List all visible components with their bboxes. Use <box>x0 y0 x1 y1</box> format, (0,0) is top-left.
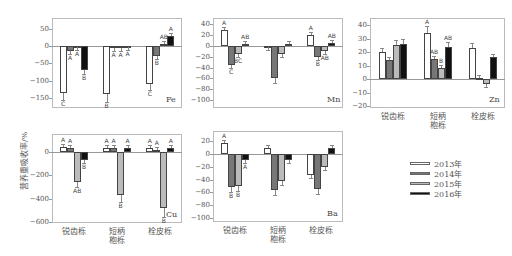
panel-element-label: Mn <box>327 95 340 104</box>
error-bar-cap <box>316 194 320 195</box>
y-tick-mark <box>210 100 213 101</box>
significance-letter: B <box>114 203 128 209</box>
error-bar-cap <box>394 40 398 41</box>
error-bar-cap <box>68 145 72 146</box>
significance-letter: A <box>420 19 434 25</box>
bar-2015 <box>160 152 167 208</box>
error-bar-cap <box>484 87 488 88</box>
significance-letter: B <box>150 60 164 66</box>
y-tick-mark <box>49 81 52 82</box>
y-tick-label: −50 <box>23 59 49 67</box>
bar-2016 <box>400 44 407 79</box>
y-tick-label: 50 <box>23 25 49 33</box>
bar-2014 <box>314 154 321 189</box>
panel-element-label: Zn <box>489 95 500 104</box>
y-tick-mark <box>367 52 370 53</box>
bar-2013 <box>221 30 228 46</box>
error-bar-cap <box>309 178 313 179</box>
y-tick-label: −400 <box>23 195 49 203</box>
error-bar-cap <box>287 41 291 42</box>
y-tick-label: −60 <box>184 74 210 82</box>
bar-2016 <box>167 148 174 152</box>
error-bar-cap <box>470 43 474 44</box>
y-tick-label: −20 <box>184 163 210 171</box>
panel-element-label: Fe <box>166 95 176 104</box>
significance-letter: C <box>143 91 157 97</box>
bar-2016 <box>285 44 292 46</box>
bar-2015 <box>438 68 445 79</box>
error-bar-cap <box>439 65 443 66</box>
bar-2013 <box>60 147 67 152</box>
legend-item-2015: 2015年 <box>410 178 462 188</box>
y-tick-mark <box>210 205 213 206</box>
error-bar-cap <box>280 57 284 58</box>
error-bar <box>63 93 64 100</box>
error-bar-cap <box>169 33 173 34</box>
bar-2014 <box>271 154 278 190</box>
significance-letter: A <box>121 138 135 144</box>
bar-2014 <box>153 46 160 56</box>
y-tick-label: 20 <box>184 31 210 39</box>
y-tick-mark <box>210 78 213 79</box>
bar-2016 <box>445 47 452 79</box>
y-tick-label: 30 <box>341 35 367 43</box>
bar-2016 <box>81 46 88 70</box>
error-bar-cap <box>222 27 226 28</box>
significance-letter: A <box>217 20 231 26</box>
y-tick-mark <box>367 106 370 107</box>
legend-swatch-2015 <box>410 182 430 185</box>
significance-letter: B <box>311 61 325 67</box>
y-tick-mark <box>210 167 213 168</box>
legend-swatch-2013 <box>410 162 430 165</box>
bar-2013 <box>103 148 110 152</box>
bar-2013 <box>307 154 314 175</box>
x-category-label: 短柄 枹栎 <box>102 227 132 245</box>
x-category-label: 短柄 枹栎 <box>423 112 453 130</box>
bar-2016 <box>124 148 131 152</box>
y-axis-label: 营养重吸收率/% <box>18 132 29 190</box>
y-tick-label: −100 <box>184 96 210 104</box>
error-bar-cap <box>105 145 109 146</box>
significance-letter: A <box>121 51 135 57</box>
y-tick-mark <box>367 39 370 40</box>
y-tick-label: −80 <box>184 85 210 93</box>
error-bar-cap <box>162 41 166 42</box>
y-tick-mark <box>49 98 52 99</box>
y-tick-mark <box>49 175 52 176</box>
y-tick-mark <box>210 218 213 219</box>
legend-swatch-2016 <box>410 192 430 195</box>
significance-letter: A <box>150 140 164 146</box>
significance-letter: B <box>100 103 114 109</box>
error-bar-cap <box>387 57 391 58</box>
significance-letter: A <box>107 138 121 144</box>
legend-item-2014: 2014年 <box>410 168 462 178</box>
bar-2014 <box>153 150 160 152</box>
bar-2013 <box>469 48 476 79</box>
bar-2014 <box>228 154 235 187</box>
significance-letter: AB <box>70 188 84 194</box>
x-category-label: 短柄 枹栎 <box>263 226 293 244</box>
error-bar-cap <box>309 32 313 33</box>
y-tick-label: −20 <box>184 53 210 61</box>
y-tick-mark <box>367 66 370 67</box>
x-category-label: 锐齿栎 <box>378 112 408 121</box>
y-tick-label: −10 <box>341 89 367 97</box>
significance-letter: A <box>304 25 318 31</box>
significance-letter: A <box>164 26 178 32</box>
legend-item-2016: 2016年 <box>410 188 462 198</box>
significance-letter: AB <box>318 55 332 61</box>
bar-2013 <box>146 148 153 152</box>
error-bar-cap <box>491 54 495 55</box>
bar-2014 <box>386 60 393 79</box>
bar-2016 <box>81 152 88 160</box>
bar-2013 <box>221 143 228 154</box>
x-category-label: 锐齿栎 <box>59 227 89 236</box>
significance-letter: B <box>77 75 91 81</box>
bar-2013 <box>379 52 386 79</box>
y-tick-label: −40 <box>184 64 210 72</box>
y-tick-label: −80 <box>184 201 210 209</box>
bar-2014 <box>476 78 483 80</box>
error-bar-cap <box>330 40 334 41</box>
y-tick-mark <box>210 89 213 90</box>
significance-letter: A <box>217 133 231 139</box>
